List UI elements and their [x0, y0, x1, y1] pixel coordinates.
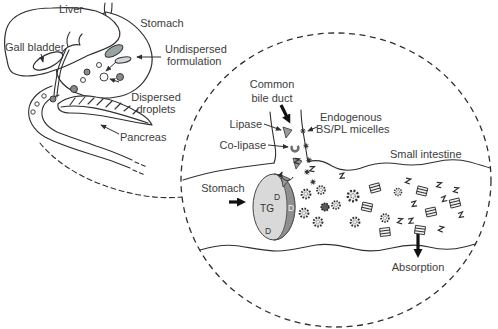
lamellar-fragment [449, 198, 461, 208]
droplet-filled [117, 74, 124, 81]
liver-label: Liver [59, 3, 83, 15]
duodenum-continuation-dashes [133, 162, 147, 175]
tg-label: TG [260, 203, 274, 214]
pancreas-label-arrow [101, 125, 119, 134]
lamellar-fragment [361, 202, 372, 212]
magnified-view: Common bile duct Lipase Co-lipase Endoge… [181, 33, 491, 327]
bs-pl-micelle-star [300, 128, 305, 133]
dispersed-label-line2: droplets [136, 103, 176, 115]
small-intestine-label: Small intestine [390, 148, 462, 160]
droplet-filled [50, 96, 56, 102]
lipase-label: Lipase [230, 118, 262, 130]
undispersed-label-line2: formulation [167, 55, 221, 67]
micelle-rosette [381, 214, 389, 222]
micelle-rosette [351, 218, 360, 227]
droplet-filled [84, 69, 90, 75]
micelle-rosette [300, 209, 309, 218]
lamellar-fragment [380, 227, 391, 236]
micelle-rosette [394, 188, 401, 195]
co-lipase-label: Co-lipase [220, 139, 266, 151]
stomach-label: Stomach [140, 17, 183, 29]
micelle-rosette [314, 218, 323, 227]
d-label-mid: D [288, 203, 294, 213]
lamellar-fragment [416, 186, 428, 196]
endogenous-label-line2: BS/PL micelles [316, 123, 390, 135]
pancreas-label: Pancreas [120, 131, 167, 143]
dispersed-label-line1: Dispersed [131, 91, 181, 103]
micelle-rosette [348, 191, 359, 202]
droplet-open [81, 78, 86, 83]
micelle-rosette-dark [321, 203, 329, 211]
gall-bladder-label: Gall bladder [5, 41, 65, 53]
micelle-rosette [332, 201, 340, 209]
droplet-open [42, 94, 46, 98]
undispersed-label-line1: Undispersed [165, 43, 227, 55]
droplet-open [97, 63, 102, 68]
lamellar-fragment [425, 207, 436, 217]
lamellar-fragment [414, 225, 425, 234]
lipid-digestion-diagram: Liver Stomach Gall bladder Undispersed f… [0, 0, 498, 329]
stomach-inner-label: Stomach [201, 182, 244, 194]
magnifier-circle [181, 33, 491, 327]
droplet-filled [71, 86, 78, 93]
micelle-rosette [317, 186, 325, 194]
common-bile-duct-label-line2: bile duct [252, 92, 293, 104]
droplet-open [31, 110, 35, 114]
micelle-rosette [302, 190, 311, 199]
common-bile-duct-label-line1: Common [250, 78, 295, 90]
d-label-bottom: D [265, 226, 271, 236]
droplet-open [35, 102, 39, 106]
endogenous-label-line1: Endogenous [320, 111, 382, 123]
droplet-open [100, 73, 108, 81]
absorption-label: Absorption [392, 261, 445, 273]
figure-canvas: Liver Stomach Gall bladder Undispersed f… [0, 0, 498, 329]
d-label-top: D [274, 192, 280, 202]
